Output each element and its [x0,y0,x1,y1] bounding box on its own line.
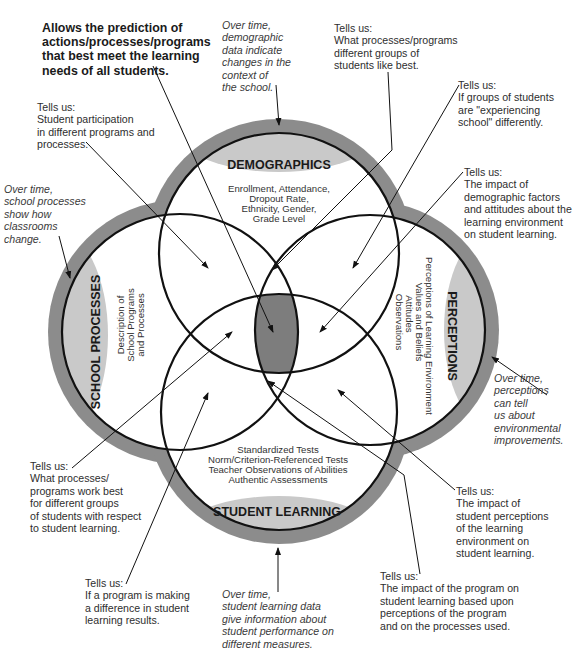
program-impact-note: Tells us: The impact of the program on s… [380,570,519,632]
school-processes-items: Description of School Programs and Proce… [115,288,146,362]
perceptions-over-time-note: Over time, perceptions can tell us about… [494,372,563,446]
learning-over-time-note: Over time, student learning data give in… [222,588,334,650]
perceptions-title: PERCEPTIONS [445,291,459,381]
demographic-factors-note: Tells us: The impact of demographic fact… [464,166,572,240]
participation-note: Tells us: Student participation in diffe… [37,101,155,151]
demographics-title: DEMOGRAPHICS [227,158,330,172]
demographics-over-time-note: Over time, demographic data indicate cha… [222,19,291,93]
experiencing-school-note: Tells us: If groups of students are "exp… [458,79,554,129]
center-annotation: Allows the prediction of actions/process… [42,21,211,78]
svg-text:Grade Level: Grade Level [253,213,305,224]
school-over-time-note: Over time, school processes show how cla… [4,183,86,245]
school-processes-title: SCHOOL PROCESSES [89,275,103,410]
what-groups-like-note: Tells us: What processes/programs differ… [334,22,458,72]
program-difference-note: Tells us: If a program is making a diffe… [85,577,190,627]
work-best-note: Tells us: What processes/ programs work … [30,460,141,534]
svg-text:Authentic Assessments: Authentic Assessments [228,474,327,485]
student-perceptions-note: Tells us: The impact of student percepti… [456,485,548,559]
svg-text:Observations: Observations [394,294,405,351]
student-learning-title: STUDENT LEARNING [213,505,341,519]
svg-text:and Processes: and Processes [135,293,146,357]
